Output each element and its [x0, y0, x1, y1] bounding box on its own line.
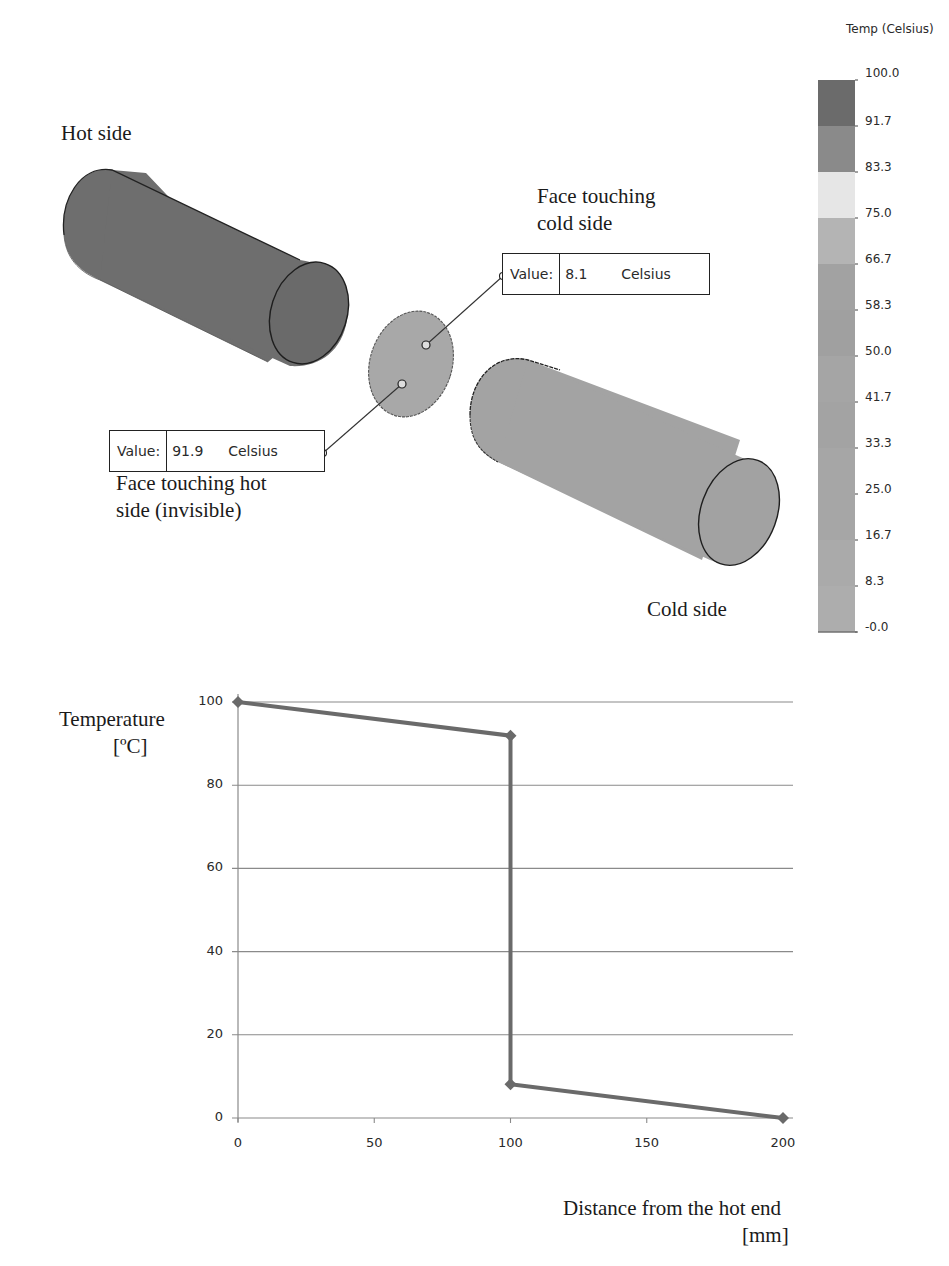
legend-tick-label: 16.7 [865, 528, 892, 542]
chart-xlabel-line1: Distance from the hot end [563, 1196, 781, 1220]
cold-side-cylinder [470, 359, 794, 577]
legend-band [818, 540, 855, 587]
chart-data-point-diamond-icon [505, 730, 517, 742]
legend-band [818, 356, 855, 403]
legend-band [818, 310, 855, 357]
probe-key: Value: [110, 431, 167, 471]
chart-y-tick-label: 0 [183, 1109, 223, 1124]
probe-point-cold-icon[interactable] [422, 341, 430, 349]
chart-data-point-diamond-icon [232, 696, 244, 708]
chart-y-tick-label: 100 [183, 693, 223, 708]
legend-title: Temp (Celsius) [846, 22, 934, 36]
legend-tick-label: 83.3 [865, 160, 892, 174]
legend-tick-label: 66.7 [865, 252, 892, 266]
chart-ylabel-line2: [ºC] [113, 734, 148, 758]
legend-tick-label: 25.0 [865, 482, 892, 496]
legend-tick-label: 75.0 [865, 206, 892, 220]
legend-tick-label: -0.0 [865, 620, 888, 634]
fea-scene [0, 0, 949, 660]
legend-band [818, 586, 855, 633]
legend-band [818, 264, 855, 311]
chart-data-point-diamond-icon [777, 1112, 789, 1124]
hot-side-label: Hot side [61, 121, 132, 145]
legend-band [818, 218, 855, 265]
legend-tick-label: 50.0 [865, 344, 892, 358]
probe-value: 8.1 [560, 266, 617, 282]
probe-point-hot-icon[interactable] [398, 380, 406, 388]
cold-side-label: Cold side [647, 597, 727, 621]
legend-colorbar [818, 80, 858, 633]
probe-key: Value: [503, 254, 560, 294]
chart-y-tick-label: 20 [183, 1026, 223, 1041]
interface-disc [355, 300, 466, 428]
chart-x-tick-label: 200 [758, 1135, 808, 1150]
legend-tick-label: 41.7 [865, 390, 892, 404]
chart-xlabel-line2: [mm] [742, 1223, 789, 1247]
hot-side-cylinder [63, 170, 361, 375]
legend-tick-label: 58.3 [865, 298, 892, 312]
probe-unit: Celsius [224, 443, 278, 459]
legend-tick-label: 100.0 [865, 66, 899, 80]
chart-series-line [238, 702, 783, 1118]
legend-tick-label: 91.7 [865, 114, 892, 128]
chart-x-tick-label: 150 [622, 1135, 672, 1150]
chart-y-tick-label: 40 [183, 943, 223, 958]
chart-y-tick-label: 60 [183, 859, 223, 874]
legend-band [818, 126, 855, 173]
legend-tick-label: 8.3 [865, 574, 884, 588]
probe-unit: Celsius [617, 266, 671, 282]
legend-band [818, 402, 855, 449]
face-hot-label-line1: Face touching hot [116, 471, 266, 495]
chart-ylabel-line1: Temperature [59, 707, 165, 731]
chart-data-point-diamond-icon [505, 1078, 517, 1090]
chart-y-tick-label: 80 [183, 776, 223, 791]
probe-value-box-cold: Value: 8.1 Celsius [502, 253, 710, 295]
legend-band [818, 80, 855, 127]
face-hot-label-line2: side (invisible) [116, 498, 241, 522]
chart-x-tick-label: 100 [486, 1135, 536, 1150]
legend-band [818, 448, 855, 495]
face-cold-label-line2: cold side [537, 211, 612, 235]
chart-x-tick-label: 50 [349, 1135, 399, 1150]
legend-band [818, 172, 855, 219]
legend-band [818, 494, 855, 541]
probe-value-box-hot: Value: 91.9 Celsius [109, 430, 325, 472]
legend-tick-label: 33.3 [865, 436, 892, 450]
chart-x-tick-label: 0 [213, 1135, 263, 1150]
probe-value: 91.9 [167, 443, 224, 459]
face-cold-label-line1: Face touching [537, 184, 655, 208]
